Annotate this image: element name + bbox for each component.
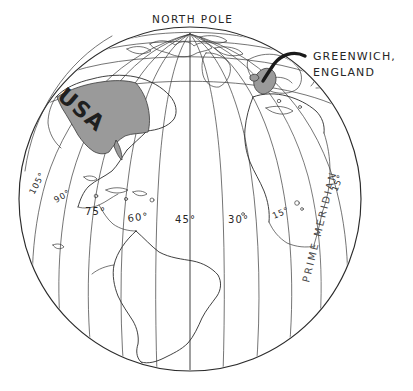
meridian-degree-labels: 105° 90° 75° 60° 45° 30° 15° 15°	[27, 170, 345, 225]
meridian-label-90: 90°	[52, 187, 72, 204]
globe-figure: USA NORTH POLE GREENWICH, ENGLAND PRIME …	[0, 0, 413, 391]
callout-line-2: ENGLAND	[313, 66, 375, 79]
meridian-label-30: 30°	[228, 214, 249, 225]
meridian-label-105: 105°	[27, 170, 47, 196]
globe-svg: USA NORTH POLE GREENWICH, ENGLAND PRIME …	[0, 0, 413, 391]
callout-line-1: GREENWICH,	[313, 50, 396, 63]
meridian-label-75: 75°	[85, 206, 106, 217]
north-pole-label: NORTH POLE	[152, 13, 233, 25]
meridian-label-45: 45°	[175, 214, 196, 225]
meridian-lines	[32, 34, 347, 374]
meridian-label-60: 60°	[127, 210, 150, 224]
